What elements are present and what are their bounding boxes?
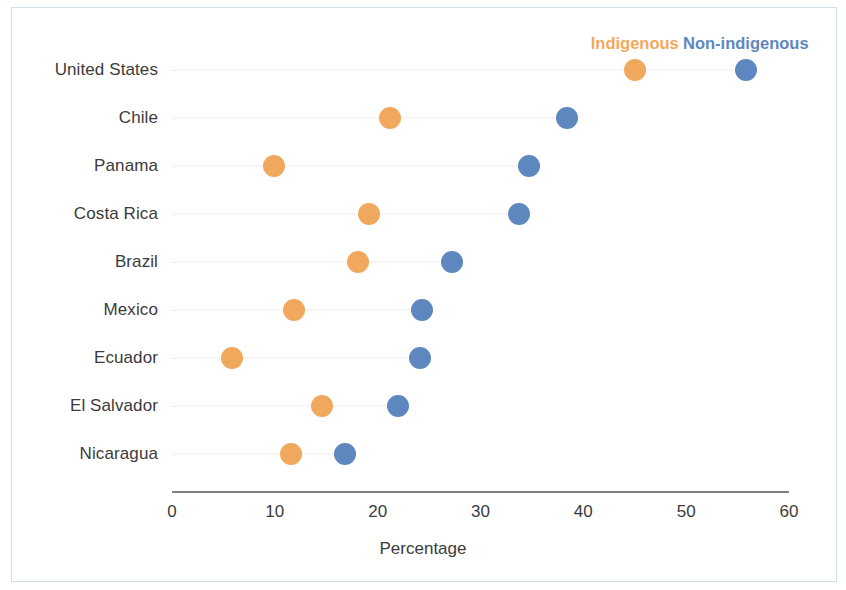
data-point-non-indigenous[interactable]	[556, 107, 578, 129]
row-connector-line	[172, 118, 567, 119]
x-tick-label: 10	[265, 502, 284, 522]
row-connector-line	[172, 166, 529, 167]
data-point-non-indigenous[interactable]	[334, 443, 356, 465]
data-point-non-indigenous[interactable]	[411, 299, 433, 321]
y-axis-label: Chile	[119, 108, 158, 128]
y-axis-label: Brazil	[115, 252, 158, 272]
data-point-indigenous[interactable]	[311, 395, 333, 417]
row-connector-line	[172, 406, 398, 407]
y-axis-label: Costa Rica	[74, 204, 158, 224]
x-tick-label: 0	[167, 502, 176, 522]
data-point-indigenous[interactable]	[379, 107, 401, 129]
y-axis-category-labels: United StatesChilePanamaCosta RicaBrazil…	[0, 0, 158, 590]
data-point-non-indigenous[interactable]	[518, 155, 540, 177]
data-point-indigenous[interactable]	[221, 347, 243, 369]
row-connector-line	[172, 262, 452, 263]
x-axis-title: Percentage	[0, 539, 846, 559]
data-point-non-indigenous[interactable]	[387, 395, 409, 417]
x-tick-label: 20	[368, 502, 387, 522]
legend-item-indigenous[interactable]: Indigenous	[591, 34, 679, 53]
data-point-indigenous[interactable]	[358, 203, 380, 225]
x-tick-label: 60	[780, 502, 799, 522]
y-axis-label: United States	[55, 60, 158, 80]
row-connector-line	[172, 214, 519, 215]
y-axis-label: Panama	[94, 156, 158, 176]
y-axis-label: Mexico	[104, 300, 158, 320]
data-point-non-indigenous[interactable]	[735, 59, 757, 81]
x-tick-label: 30	[471, 502, 490, 522]
y-axis-label: El Salvador	[70, 396, 158, 416]
data-point-non-indigenous[interactable]	[409, 347, 431, 369]
data-point-indigenous[interactable]	[280, 443, 302, 465]
row-connector-line	[172, 454, 345, 455]
y-axis-label: Nicaragua	[80, 444, 158, 464]
legend-item-non-indigenous[interactable]: Non-indigenous	[683, 34, 809, 53]
data-point-non-indigenous[interactable]	[508, 203, 530, 225]
x-axis-line	[172, 491, 789, 493]
x-tick-label: 50	[677, 502, 696, 522]
row-connector-line	[172, 358, 420, 359]
y-axis-label: Ecuador	[94, 348, 158, 368]
data-point-non-indigenous[interactable]	[441, 251, 463, 273]
data-point-indigenous[interactable]	[347, 251, 369, 273]
chart-figure: United StatesChilePanamaCosta RicaBrazil…	[0, 0, 846, 590]
data-point-indigenous[interactable]	[263, 155, 285, 177]
data-point-indigenous[interactable]	[283, 299, 305, 321]
x-tick-label: 40	[574, 502, 593, 522]
row-connector-line	[172, 70, 746, 71]
data-point-indigenous[interactable]	[624, 59, 646, 81]
plot-area: United StatesChilePanamaCosta RicaBrazil…	[0, 0, 846, 590]
